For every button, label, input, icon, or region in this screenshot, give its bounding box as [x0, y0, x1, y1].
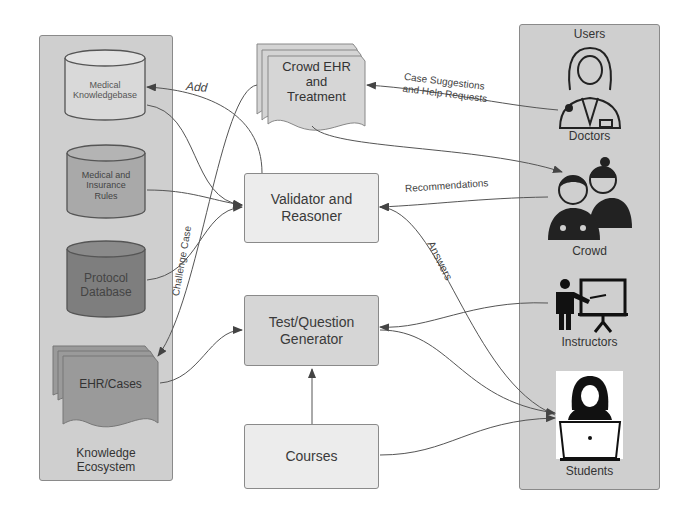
instructor-whiteboard-icon — [556, 279, 628, 332]
crowd-ehr-label: Crowd EHR and Treatment — [268, 60, 365, 105]
medical-crowd-icon — [548, 157, 632, 240]
add-edge-label: Add — [185, 79, 207, 95]
crowd-label[interactable]: Crowd — [519, 245, 660, 259]
students-label[interactable]: Students — [519, 465, 660, 479]
medical-insurance-rules-label: Medical and Insurance Rules — [66, 170, 146, 201]
ehr-cases-label: EHR/Cases — [63, 378, 158, 392]
doctors-label[interactable]: Doctors — [519, 130, 660, 144]
instructors-label[interactable]: Instructors — [519, 336, 660, 350]
courses-box[interactable]: Courses — [244, 424, 379, 489]
knowledge-ecosystem-title: Knowledge Ecosystem — [39, 447, 173, 475]
validator-reasoner-box[interactable]: Validator andReasoner — [244, 173, 379, 243]
female-doctor-icon — [560, 48, 620, 128]
protocol-database-label: Protocol Database — [66, 272, 146, 300]
student-laptop-icon — [556, 371, 623, 461]
medical-knowledgebase-label: Medical Knowledgebase — [62, 80, 148, 101]
users-panel-title: Users — [519, 28, 660, 42]
test-question-generator-box[interactable]: Test/QuestionGenerator — [244, 295, 379, 366]
